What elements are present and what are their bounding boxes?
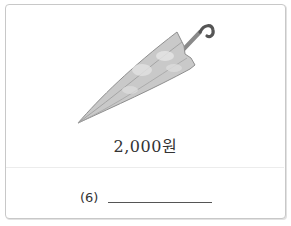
answer-blank[interactable] (108, 202, 212, 203)
umbrella-highlight (122, 86, 138, 94)
umbrella-highlight (156, 51, 174, 61)
divider (6, 167, 284, 168)
price-label: 2,000원 (0, 133, 291, 157)
umbrella-icon (70, 18, 220, 130)
umbrella-highlight (132, 64, 152, 76)
umbrella-highlight (166, 64, 182, 72)
question-number: (6) (80, 190, 98, 205)
umbrella-hook (200, 26, 213, 37)
